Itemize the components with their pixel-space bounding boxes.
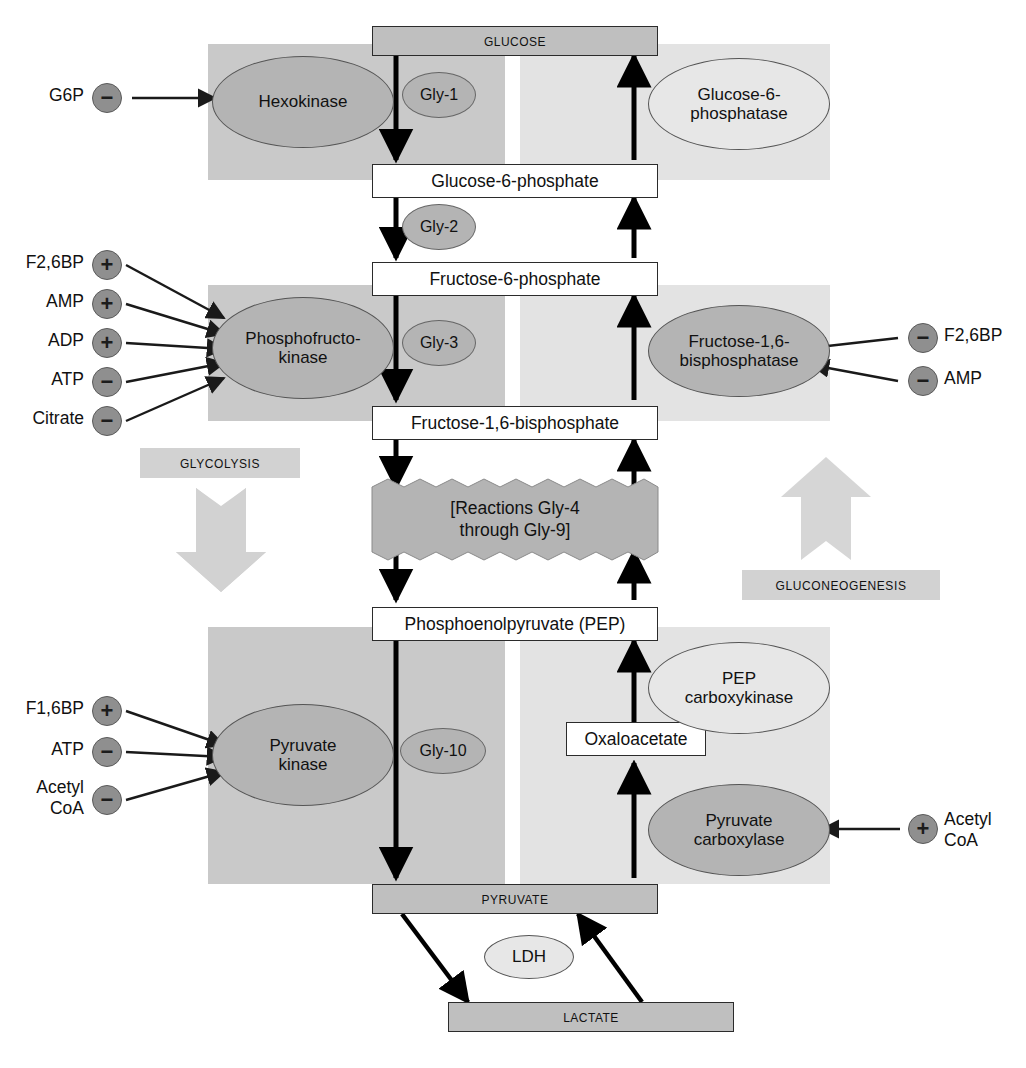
regulator-badge-pk-f16bp: + <box>92 696 122 726</box>
pathway-label-glycolysis-text: GLYCOLYSIS <box>180 453 260 473</box>
metabolite-lactate-label: LACTATE <box>563 1007 619 1027</box>
metabolite-phosphoenolpyruvate: Phosphoenolpyruvate (PEP) <box>372 607 658 641</box>
metabolite-oxaloacetate-label: Oxaloacetate <box>584 729 687 750</box>
metabolite-lactate: LACTATE <box>448 1002 734 1032</box>
regulator-label-pk-f16bp: F1,6BP <box>0 699 84 718</box>
enzyme-fructose-1-6-bisphosphatase-line1: Fructose-1,6- <box>688 332 789 351</box>
enzyme-pyruvate-carboxylase-line1: Pyruvate <box>705 811 772 830</box>
regulator-sign-fbpase-amp: − <box>909 367 937 395</box>
enzyme-pyruvate-kinase-line2: kinase <box>278 755 327 774</box>
enzyme-pep-carboxykinase: PEP carboxykinase <box>648 642 830 734</box>
regulator-label-pc-acetyl-coa-line2: CoA <box>944 830 992 851</box>
regulator-badge-g6p: − <box>92 83 122 113</box>
enzyme-pep-carboxykinase-line1: PEP <box>722 669 756 688</box>
enzyme-pyruvate-kinase: Pyruvate kinase <box>212 704 394 806</box>
metabolite-glucose-6-phosphate: Glucose-6-phosphate <box>372 164 658 198</box>
step-gly-3-label: Gly-3 <box>420 334 458 352</box>
regulator-label-pfk-adp: ADP <box>0 331 84 350</box>
regulator-label-g6p: G6P <box>22 86 84 105</box>
regulator-label-pfk-f26bp: F2,6BP <box>0 253 84 272</box>
regulator-badge-pfk-citrate: − <box>92 406 122 436</box>
reaction-block-gly4-gly9: [Reactions Gly-4 through Gly-9] <box>372 487 658 552</box>
enzyme-glucose-6-phosphatase-line1: Glucose-6- <box>697 85 780 104</box>
regulator-sign-pfk-amp: + <box>93 290 121 318</box>
metabolite-glucose-6-phosphate-label: Glucose-6-phosphate <box>431 171 598 192</box>
step-gly-3: Gly-3 <box>402 320 476 366</box>
metabolite-fructose-6-phosphate-label: Fructose-6-phosphate <box>429 269 600 290</box>
enzyme-phosphofructokinase-line1: Phosphofructo- <box>245 329 360 348</box>
regulator-label-pfk-atp: ATP <box>0 370 84 389</box>
metabolite-fructose-1-6-bisphosphate: Fructose-1,6-bisphosphate <box>372 406 658 440</box>
regulator-sign-pk-f16bp: + <box>93 697 121 725</box>
metabolite-fructose-1-6-bisphosphate-label: Fructose-1,6-bisphosphate <box>411 413 619 434</box>
enzyme-pyruvate-carboxylase-line2: carboxylase <box>694 830 785 849</box>
regulator-badge-pfk-f26bp: + <box>92 250 122 280</box>
regulator-sign-g6p: − <box>93 84 121 112</box>
enzyme-glucose-6-phosphatase: Glucose-6- phosphatase <box>648 58 830 150</box>
regulator-label-pfk-amp: AMP <box>0 292 84 311</box>
step-gly-10-label: Gly-10 <box>419 742 466 760</box>
enzyme-ldh-label: LDH <box>512 947 546 966</box>
step-gly-1: Gly-1 <box>402 72 476 118</box>
regulator-sign-pfk-f26bp: + <box>93 251 121 279</box>
regulator-label-pk-acetyl-coa: Acetyl CoA <box>0 777 84 818</box>
enzyme-pyruvate-carboxylase: Pyruvate carboxylase <box>648 784 830 876</box>
regulator-label-pfk-citrate: Citrate <box>0 409 84 428</box>
enzyme-hexokinase: Hexokinase <box>212 56 394 148</box>
regulator-badge-fbpase-amp: − <box>908 366 938 396</box>
regulator-badge-pfk-atp: − <box>92 367 122 397</box>
metabolite-phosphoenolpyruvate-label: Phosphoenolpyruvate (PEP) <box>405 614 626 635</box>
regulator-badge-pk-acetyl-coa: − <box>92 785 122 815</box>
regulator-label-fbpase-amp: AMP <box>944 369 982 388</box>
metabolite-fructose-6-phosphate: Fructose-6-phosphate <box>372 262 658 296</box>
enzyme-fructose-1-6-bisphosphatase-line2: bisphosphatase <box>679 351 798 370</box>
pathway-label-glycolysis: GLYCOLYSIS <box>140 448 300 478</box>
regulator-label-pk-acetyl-coa-line2: CoA <box>0 798 84 819</box>
regulator-badge-fbpase-f26bp: − <box>908 323 938 353</box>
regulator-sign-pk-atp: − <box>93 738 121 766</box>
step-gly-10: Gly-10 <box>400 728 486 774</box>
pathway-label-gluconeogenesis-text: GLUCONEOGENESIS <box>775 575 906 595</box>
glycolysis-gluconeogenesis-diagram: GLUCOSE Glucose-6-phosphate Fructose-6-p… <box>0 0 1026 1068</box>
metabolite-glucose-label: GLUCOSE <box>484 31 546 51</box>
metabolite-pyruvate: PYRUVATE <box>372 884 658 914</box>
regulator-label-fbpase-f26bp: F2,6BP <box>944 326 1002 345</box>
metabolite-oxaloacetate: Oxaloacetate <box>566 722 706 756</box>
enzyme-hexokinase-label: Hexokinase <box>259 92 348 111</box>
regulator-badge-pfk-amp: + <box>92 289 122 319</box>
reaction-block-line2: through Gly-9] <box>460 520 571 542</box>
enzyme-fructose-1-6-bisphosphatase: Fructose-1,6- bisphosphatase <box>648 305 830 397</box>
step-gly-1-label: Gly-1 <box>420 86 458 104</box>
enzyme-phosphofructokinase: Phosphofructo- kinase <box>212 297 394 399</box>
regulator-badge-pfk-adp: + <box>92 328 122 358</box>
step-gly-2-label: Gly-2 <box>420 218 458 236</box>
enzyme-phosphofructokinase-line2: kinase <box>278 348 327 367</box>
regulator-label-pc-acetyl-coa: Acetyl CoA <box>944 809 992 850</box>
enzyme-pyruvate-kinase-line1: Pyruvate <box>269 736 336 755</box>
metabolite-pyruvate-label: PYRUVATE <box>482 889 549 909</box>
enzyme-ldh: LDH <box>484 935 574 979</box>
step-gly-2: Gly-2 <box>402 204 476 250</box>
regulator-sign-pfk-citrate: − <box>93 407 121 435</box>
regulator-label-pk-acetyl-coa-line1: Acetyl <box>0 777 84 798</box>
regulator-badge-pc-acetyl-coa: + <box>908 814 938 844</box>
enzyme-glucose-6-phosphatase-line2: phosphatase <box>690 104 787 123</box>
pathway-label-gluconeogenesis: GLUCONEOGENESIS <box>742 570 940 600</box>
enzyme-pep-carboxykinase-line2: carboxykinase <box>685 688 794 707</box>
regulator-badge-pk-atp: − <box>92 737 122 767</box>
reaction-block-line1: [Reactions Gly-4 <box>450 498 579 520</box>
metabolite-glucose: GLUCOSE <box>372 26 658 56</box>
regulator-sign-pk-acetyl-coa: − <box>93 786 121 814</box>
regulator-sign-fbpase-f26bp: − <box>909 324 937 352</box>
regulator-label-pc-acetyl-coa-line1: Acetyl <box>944 809 992 830</box>
regulator-label-pk-atp: ATP <box>0 740 84 759</box>
regulator-sign-pc-acetyl-coa: + <box>909 815 937 843</box>
regulator-sign-pfk-atp: − <box>93 368 121 396</box>
regulator-sign-pfk-adp: + <box>93 329 121 357</box>
